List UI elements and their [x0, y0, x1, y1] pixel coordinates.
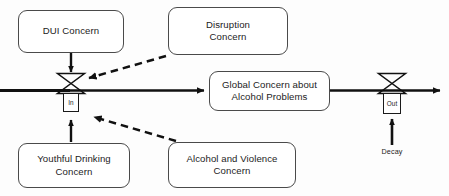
node-disruption-concern-label: Disruption Concern: [206, 19, 250, 44]
node-alcohol-and-violence-concern[interactable]: Alcohol and Violence Concern: [168, 142, 296, 188]
node-youthful-drinking-concern-label: Youthful Drinking Concern: [37, 153, 111, 178]
decay-caption-label: Decay: [382, 147, 403, 156]
stock-and-flow-diagram: DUI Concern Disruption Concern Global Co…: [0, 0, 449, 196]
inflow-rate-tag[interactable]: In: [63, 93, 79, 112]
outflow-rate-label: Out: [387, 100, 398, 107]
node-youthful-drinking-concern[interactable]: Youthful Drinking Concern: [18, 143, 130, 188]
outflow-rate-tag[interactable]: Out: [383, 93, 401, 114]
link-alcohol-and-violence-concern-to-inflow: [94, 117, 176, 141]
inflow-rate-label: In: [68, 99, 74, 106]
node-global-concern-stock[interactable]: Global Concern about Alcohol Problems: [209, 71, 330, 111]
node-disruption-concern[interactable]: Disruption Concern: [168, 7, 288, 55]
node-alcohol-and-violence-concern-label: Alcohol and Violence Concern: [186, 153, 277, 178]
decay-caption: Decay: [367, 147, 417, 156]
node-global-concern-stock-label: Global Concern about Alcohol Problems: [222, 79, 317, 104]
link-disruption-concern-to-inflow: [89, 56, 166, 78]
node-dui-concern[interactable]: DUI Concern: [18, 10, 124, 53]
node-dui-concern-label: DUI Concern: [43, 25, 99, 37]
